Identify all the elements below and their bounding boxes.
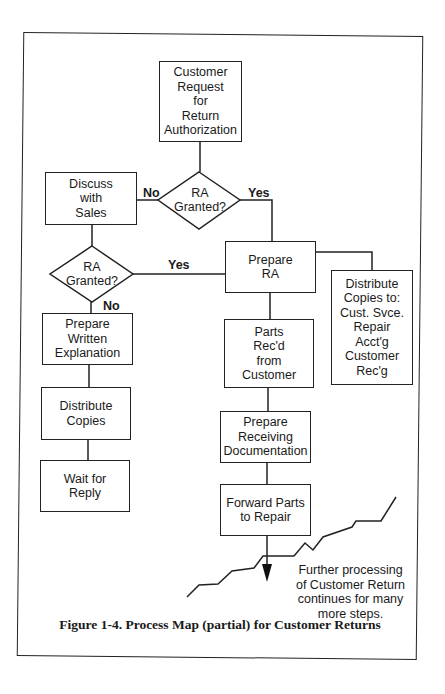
node-parts-received: Parts Rec'd from Customer	[224, 319, 314, 388]
node-distribute-copies-to: Distribute Copies to: Cust. Svce. Repair…	[331, 270, 413, 385]
node-prepare-written-explanation: Prepare Written Explanation	[42, 313, 133, 365]
node-forward-parts: Forward Parts to Repair	[220, 484, 311, 536]
node-distribute-copies: Distribute Copies	[41, 387, 131, 440]
edge-label-decision-1-no: No	[143, 186, 160, 200]
decision-1-label: RA Granted?	[165, 186, 235, 214]
further-processing-note: Further processing of Customer Return co…	[293, 563, 408, 621]
node-prepare-receiving-documentation: Prepare Receiving Documentation	[220, 411, 311, 463]
decision-2-label: RA Granted?	[57, 260, 127, 288]
node-wait-for-reply: Wait for Reply	[40, 460, 130, 512]
figure-caption: Figure 1-4. Process Map (partial) for Cu…	[30, 617, 410, 633]
node-prepare-ra: Prepare RA	[225, 241, 316, 293]
node-customer-request: Customer Request for Return Authorizatio…	[159, 61, 242, 142]
edge-label-decision-2-no: No	[103, 299, 120, 313]
arrow-down-icon	[262, 564, 272, 582]
edge-label-decision-1-yes: Yes	[248, 186, 270, 200]
edge-label-decision-2-yes: Yes	[168, 258, 190, 272]
node-discuss-with-sales: Discuss with Sales	[45, 172, 137, 225]
